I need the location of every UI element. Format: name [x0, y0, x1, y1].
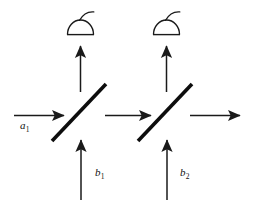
detector-1 [67, 12, 94, 35]
mode-label-b1-sub: 1 [101, 172, 105, 181]
beam-splitter-2 [138, 84, 192, 141]
beam-splitter-2-surface [138, 84, 192, 141]
diagram-canvas [0, 0, 254, 201]
mode-label-b2-base: b [180, 166, 186, 178]
beam-splitter-1 [52, 84, 106, 141]
optics-diagram: a1 b1 b2 [0, 0, 254, 201]
mode-label-a1-sub: 1 [26, 125, 30, 134]
detector-1-lead-wire [80, 12, 94, 21]
detector-2 [153, 12, 180, 35]
mode-label-b1: b1 [95, 167, 104, 178]
mode-label-a1-base: a [20, 119, 26, 131]
mode-label-b1-base: b [95, 166, 101, 178]
detector-1-dome [68, 20, 94, 35]
mode-label-a1: a1 [20, 120, 29, 131]
beam-splitter-1-surface [52, 84, 106, 141]
mode-label-b2: b2 [180, 167, 189, 178]
mode-label-b2-sub: 2 [186, 172, 190, 181]
detector-2-lead-wire [166, 12, 180, 21]
detector-2-dome [154, 20, 180, 35]
